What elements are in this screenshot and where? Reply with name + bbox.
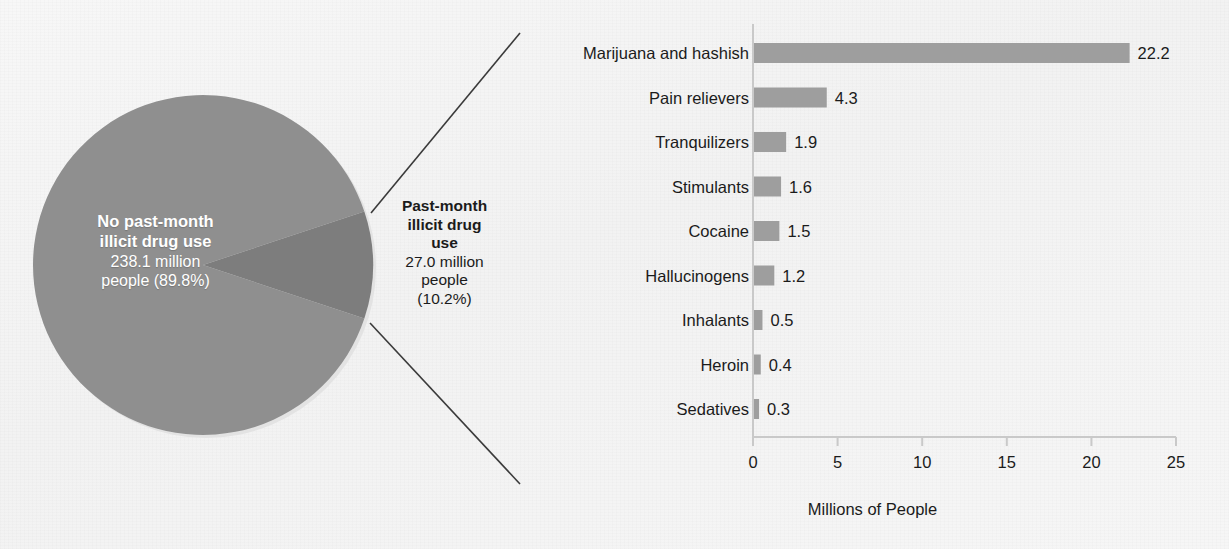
bar-value-label: 1.6	[789, 177, 812, 196]
bar[interactable]	[754, 266, 774, 286]
x-axis-tick-label: 5	[833, 453, 842, 472]
bar-category-label: Heroin	[700, 355, 749, 374]
x-axis-tick-label: 10	[913, 453, 931, 472]
bar[interactable]	[754, 43, 1130, 63]
pie-minor-value-line3: (10.2%)	[382, 290, 507, 309]
pie-minor-value-line1: 27.0 million	[382, 253, 507, 272]
bar-value-label: 0.3	[767, 400, 790, 419]
bar-chart-panel: Marijuana and hashishPain relieversTranq…	[516, 0, 1229, 549]
bar-value-label: 1.9	[794, 133, 817, 152]
bar-category-label: Marijuana and hashish	[583, 44, 749, 63]
bar[interactable]	[754, 177, 781, 197]
x-axis-title: Millions of People	[516, 500, 1229, 519]
bar-category-label: Inhalants	[682, 311, 749, 330]
bar-category-label: Hallucinogens	[645, 266, 749, 285]
pie-major-value-line1: 238.1 million	[38, 252, 273, 271]
bar-value-label: 0.4	[769, 355, 792, 374]
bar-category-label: Pain relievers	[649, 88, 749, 107]
bar-category-label: Sedatives	[677, 400, 749, 419]
pie-major-value-line2: people (89.8%)	[38, 271, 273, 290]
x-axis-tick-label: 15	[998, 453, 1016, 472]
pie-chart-panel: No past-month illicit drug use 238.1 mil…	[0, 0, 530, 549]
axis-group	[753, 24, 1176, 446]
bar[interactable]	[754, 355, 761, 375]
pie-minor-value-line2: people	[382, 271, 507, 290]
x-axis-tick-label: 0	[748, 453, 757, 472]
bar-value-label: 0.5	[770, 311, 793, 330]
pie-major-title-line1: No past-month	[38, 212, 273, 232]
x-axis-tick-label: 25	[1167, 453, 1185, 472]
bar[interactable]	[754, 132, 786, 152]
figure-root: No past-month illicit drug use 238.1 mil…	[0, 0, 1229, 549]
bars-group	[754, 43, 1130, 419]
bar-value-label: 4.3	[835, 88, 858, 107]
pie-major-title-line2: illicit drug use	[38, 232, 273, 252]
bar-category-label: Cocaine	[688, 222, 749, 241]
bar[interactable]	[754, 221, 779, 241]
bar-chart-svg	[516, 0, 1229, 549]
pie-minor-title-line2: illicit drug	[382, 216, 507, 235]
pie-label-no-past-month-use: No past-month illicit drug use 238.1 mil…	[38, 212, 273, 290]
pie-minor-title-line3: use	[382, 234, 507, 253]
bar[interactable]	[754, 399, 759, 419]
bar[interactable]	[754, 88, 827, 108]
bar-value-label: 1.2	[782, 266, 805, 285]
bar-category-label: Stimulants	[672, 177, 749, 196]
pie-label-past-month-use: Past-month illicit drug use 27.0 million…	[382, 197, 507, 309]
bar-value-label: 22.2	[1138, 44, 1170, 63]
bar-category-label: Tranquilizers	[655, 133, 749, 152]
bar-value-label: 1.5	[787, 222, 810, 241]
x-axis-tick-label: 20	[1082, 453, 1100, 472]
bar[interactable]	[754, 310, 762, 330]
pie-minor-title-line1: Past-month	[382, 197, 507, 216]
